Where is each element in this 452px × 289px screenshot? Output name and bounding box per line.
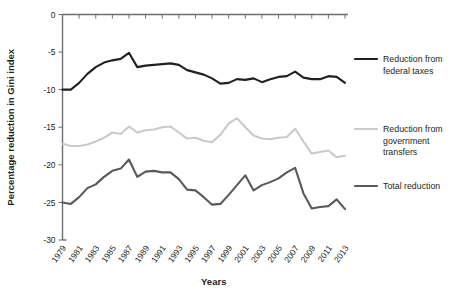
x-axis-title: Years [201, 276, 226, 287]
x-tick-label: 2013 [332, 243, 351, 264]
x-tick-label: 2009 [299, 243, 318, 264]
series-line-2 [63, 160, 346, 210]
legend-label-1: Reduction from [383, 124, 443, 134]
x-tick-label: 2007 [282, 243, 301, 264]
chart-figure: 0-5-10-15-20-25-301979198119831985198719… [0, 0, 452, 289]
y-tick-label: -25 [43, 198, 55, 208]
y-tick-label: -5 [48, 47, 56, 57]
y-axis-title: Percentage reduction in Gini index [5, 48, 16, 205]
y-tick-label: -20 [43, 160, 55, 170]
y-tick-label: -10 [43, 85, 55, 95]
x-tick-label: 1999 [215, 243, 234, 264]
line-chart: 0-5-10-15-20-25-301979198119831985198719… [0, 0, 452, 289]
x-tick-label: 2011 [315, 243, 334, 264]
x-tick-label: 1979 [49, 243, 68, 264]
x-tick-label: 2001 [232, 243, 251, 264]
x-tick-label: 2005 [265, 243, 284, 264]
x-tick-label: 1991 [149, 243, 168, 264]
legend-label-2: Total reduction [383, 181, 440, 191]
y-tick-label: 0 [51, 10, 56, 20]
x-tick-label: 1989 [132, 243, 151, 264]
x-tick-label: 1981 [66, 243, 85, 264]
x-tick-label: 1983 [82, 243, 101, 264]
y-tick-label: -15 [43, 122, 55, 132]
legend-label-1: government [383, 136, 430, 146]
x-tick-label: 2003 [249, 243, 268, 264]
legend-label-1: transfers [383, 147, 418, 157]
legend-label-0: federal taxes [383, 66, 434, 76]
x-tick-label: 1987 [116, 243, 135, 264]
legend-label-0: Reduction from [383, 54, 443, 64]
x-tick-label: 1985 [99, 243, 118, 264]
x-tick-label: 1995 [182, 243, 201, 264]
x-tick-label: 1997 [199, 243, 218, 264]
series-line-1 [63, 118, 346, 157]
y-tick-label: -30 [43, 235, 55, 245]
x-tick-label: 1993 [166, 243, 185, 264]
series-line-0 [63, 53, 346, 90]
